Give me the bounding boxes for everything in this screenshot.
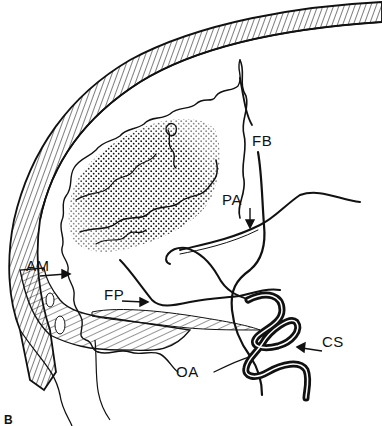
panel-label: B <box>4 413 13 426</box>
label-fp: FP <box>104 287 124 302</box>
oa-vessel <box>98 351 252 372</box>
label-fb: FB <box>252 133 272 148</box>
frontal-bone-base <box>20 268 260 426</box>
label-am: AM <box>26 258 50 273</box>
label-cs: CS <box>322 334 344 349</box>
label-oa: OA <box>176 364 199 379</box>
label-pa: PA <box>222 192 242 207</box>
